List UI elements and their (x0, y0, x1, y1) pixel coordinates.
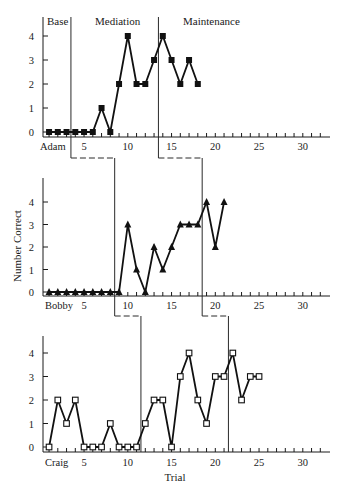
panel-name: Adam (40, 141, 66, 152)
y-tick-label: 4 (29, 31, 35, 42)
data-point (151, 57, 157, 63)
data-point (142, 288, 149, 295)
data-point (116, 81, 122, 87)
data-point (99, 105, 105, 111)
data-point (159, 266, 166, 273)
data-point (99, 444, 105, 450)
data-point (90, 444, 96, 450)
data-point (221, 198, 228, 205)
data-point (55, 397, 61, 403)
data-point (186, 350, 192, 356)
data-point (248, 374, 254, 380)
panel-craig: 0123451015202530Craig (29, 316, 330, 468)
y-tick-label: 2 (29, 79, 34, 90)
data-point (81, 129, 87, 135)
data-point (178, 374, 184, 380)
data-point (151, 243, 158, 250)
panel-bobby: 0123451015202530Bobby (29, 158, 330, 316)
y-tick-label: 3 (29, 55, 34, 66)
x-tick-label: 5 (81, 300, 86, 311)
data-point (107, 129, 113, 135)
y-tick-label: 2 (29, 395, 34, 406)
phase-label-maintenance: Maintenance (183, 15, 240, 27)
y-tick-label: 4 (29, 197, 35, 208)
panel-name: Bobby (45, 300, 74, 311)
y-axis-label: Number Correct (11, 210, 23, 282)
y-tick-label: 3 (29, 220, 34, 231)
phase-label-mediation: Mediation (95, 15, 141, 27)
data-point (221, 374, 227, 380)
data-point (203, 198, 210, 205)
y-tick-label: 0 (29, 127, 34, 138)
data-point (186, 57, 192, 63)
data-point (134, 444, 140, 450)
x-tick-label: 15 (166, 457, 177, 468)
data-point (169, 57, 175, 63)
x-tick-label: 10 (123, 457, 134, 468)
data-point (256, 374, 262, 380)
x-axis-label: Trial (165, 471, 186, 483)
y-tick-label: 3 (29, 372, 34, 383)
data-point (160, 33, 166, 39)
data-point (134, 81, 140, 87)
x-tick-label: 20 (210, 457, 221, 468)
phase-label-base: Base (47, 15, 69, 27)
x-tick-label: 15 (166, 300, 177, 311)
data-point (230, 350, 236, 356)
y-tick-label: 1 (29, 419, 34, 430)
x-tick-label: 10 (123, 300, 134, 311)
y-tick-label: 0 (29, 287, 34, 298)
data-point (133, 266, 140, 273)
panel-name: Craig (45, 457, 69, 468)
chart-panels: 0123451015202530Adam0123451015202530Bobb… (29, 17, 330, 468)
data-point (125, 444, 131, 450)
data-point (204, 421, 210, 427)
y-tick-label: 2 (29, 242, 34, 253)
data-point (195, 81, 201, 87)
x-tick-label: 10 (123, 141, 134, 152)
x-tick-label: 30 (298, 141, 309, 152)
data-point (55, 129, 61, 135)
y-tick-label: 1 (29, 265, 34, 276)
data-point (73, 397, 79, 403)
data-point (64, 421, 70, 427)
x-tick-label: 30 (298, 300, 309, 311)
data-point (213, 374, 219, 380)
data-point (46, 444, 52, 450)
data-point (239, 397, 245, 403)
multiple-baseline-chart: 0123451015202530Adam0123451015202530Bobb… (0, 0, 347, 494)
data-point (46, 129, 52, 135)
data-point (142, 81, 148, 87)
y-tick-label: 4 (29, 348, 35, 359)
data-point (124, 221, 131, 228)
y-tick-label: 0 (29, 442, 34, 453)
data-point (160, 397, 166, 403)
y-tick-label: 1 (29, 103, 34, 114)
data-point (81, 444, 87, 450)
data-point (143, 421, 149, 427)
x-tick-label: 20 (210, 300, 221, 311)
data-point (116, 444, 122, 450)
data-point (64, 129, 70, 135)
data-series (49, 202, 224, 292)
x-tick-label: 20 (210, 141, 221, 152)
data-point (151, 397, 157, 403)
x-tick-label: 5 (81, 457, 86, 468)
x-tick-label: 25 (254, 457, 265, 468)
data-point (168, 243, 175, 250)
data-point (90, 129, 96, 135)
data-point (169, 444, 175, 450)
data-point (177, 81, 183, 87)
x-tick-label: 25 (254, 300, 265, 311)
panel-adam: 0123451015202530Adam (29, 17, 330, 158)
x-tick-label: 25 (254, 141, 265, 152)
data-point (72, 129, 78, 135)
data-point (108, 421, 114, 427)
data-point (212, 243, 219, 250)
data-point (125, 33, 131, 39)
data-point (195, 397, 201, 403)
x-tick-label: 30 (298, 457, 309, 468)
x-tick-label: 15 (166, 141, 177, 152)
x-tick-label: 5 (81, 141, 86, 152)
